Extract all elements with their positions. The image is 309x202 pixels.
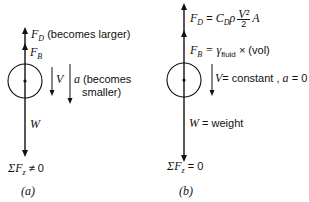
drag-force-subscript: D: [38, 34, 44, 43]
density-symbol: ρ: [229, 11, 235, 25]
buoyant-force-label-a: FB: [30, 46, 42, 63]
sum-forces-prefix: ΣF: [167, 159, 181, 173]
sphere-center-a: [23, 79, 26, 82]
equals-sign: =: [206, 12, 212, 24]
sum-forces-subscript: z: [181, 166, 184, 175]
velocity-symbol: V: [56, 72, 63, 86]
buoyant-arrowhead-a: [22, 43, 28, 50]
acceleration-note-line2-text: smaller): [82, 86, 121, 98]
caption-b: (b): [179, 185, 193, 197]
gamma-symbol: = γ: [205, 43, 221, 57]
drag-force-equation-b: FD = CDρV²2A: [190, 10, 260, 29]
sum-forces-label-b: ΣFz = 0: [167, 160, 203, 177]
drag-arrowhead-b: [181, 3, 187, 10]
drag-force-subscript: D: [197, 18, 203, 27]
buoyant-arrowhead-b: [181, 30, 187, 37]
velocity-text: = constant ,: [222, 72, 279, 84]
drag-arrowhead-a: [22, 27, 28, 34]
sphere-center-b: [182, 78, 185, 81]
velocity-label-b: V= constant , a = 0: [215, 72, 307, 84]
acceleration-label-a: a (becomes: [74, 73, 131, 85]
buoyant-force-subscript: B: [37, 52, 42, 61]
fraction-denominator: 2: [241, 20, 246, 29]
sum-forces-subscript: z: [22, 168, 25, 177]
drag-coefficient: C: [216, 11, 224, 25]
volume-term: × (vol): [239, 44, 270, 56]
weight-label-b: W = weight: [189, 117, 243, 129]
area-symbol: A: [252, 11, 259, 25]
acceleration-note-line1: (becomes: [83, 73, 131, 85]
buoyant-force-equation-b: FB = γfluid × (vol): [190, 44, 270, 61]
caption-a: (a): [21, 185, 35, 197]
weight-arrowhead-a: [22, 150, 28, 157]
acceleration-symbol: a: [74, 72, 80, 86]
sum-forces-label-a: ΣFz ≠ 0: [8, 162, 44, 179]
weight-label-a: W: [30, 118, 40, 130]
drag-force-note: (becomes larger): [47, 28, 130, 40]
weight-symbol: W: [30, 117, 40, 131]
acceleration-text: = 0: [292, 72, 308, 84]
sum-forces-relation: = 0: [188, 160, 204, 172]
weight-symbol: W: [189, 116, 199, 130]
velocity-squared-fraction: V²2: [237, 10, 250, 29]
drag-force-label-a: FD (becomes larger): [31, 28, 130, 45]
weight-text: = weight: [202, 117, 243, 129]
buoyant-force-subscript: B: [197, 50, 202, 59]
sum-forces-relation: ≠ 0: [29, 162, 44, 174]
sum-forces-prefix: ΣF: [8, 161, 22, 175]
velocity-label-a: V: [56, 73, 63, 85]
acceleration-note-line2: smaller): [82, 86, 121, 98]
acceleration-symbol: a: [283, 71, 289, 85]
gamma-subscript: fluid: [221, 50, 236, 59]
